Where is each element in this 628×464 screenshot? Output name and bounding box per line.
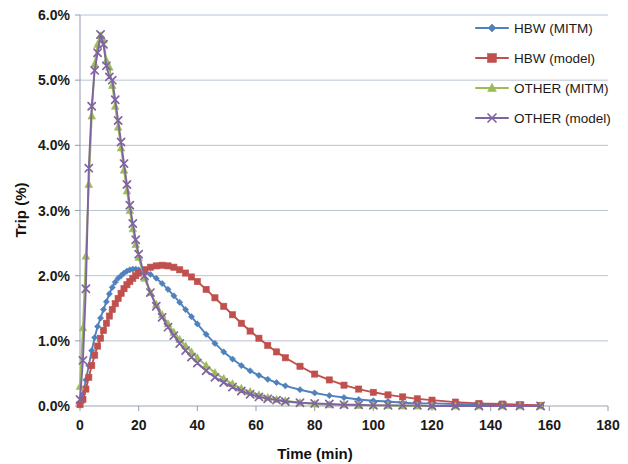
data-point-marker-square	[159, 262, 165, 268]
data-point-marker-square	[238, 320, 244, 326]
x-tick-label: 80	[307, 417, 323, 433]
data-point-marker-square	[194, 278, 200, 284]
x-tick-label: 180	[596, 417, 620, 433]
data-point-marker-square	[95, 343, 101, 349]
x-tick-label: 140	[479, 417, 503, 433]
data-point-marker-square	[297, 363, 303, 369]
x-axis-title: Time (min)	[277, 445, 353, 462]
data-point-marker-square	[326, 377, 332, 383]
data-point-marker-square	[103, 320, 109, 326]
data-point-marker-square	[356, 386, 362, 392]
data-point-marker-square	[106, 313, 112, 319]
y-tick-label: 3.0%	[38, 203, 70, 219]
data-point-marker-square	[153, 263, 159, 269]
data-point-marker-square	[147, 264, 153, 270]
legend-item-label: OTHER (model)	[514, 111, 611, 126]
data-point-marker-square	[109, 306, 115, 312]
data-point-marker-square	[177, 267, 183, 273]
y-tick-label: 0.0%	[38, 398, 70, 414]
chart-container: 020406080100120140160180 0.0%1.0%2.0%3.0…	[0, 0, 628, 464]
data-point-marker-square	[273, 349, 279, 355]
y-tick-label: 2.0%	[38, 268, 70, 284]
data-point-marker-square	[400, 394, 406, 400]
data-point-marker-square	[97, 335, 103, 341]
data-point-marker-square	[414, 396, 420, 402]
data-point-marker-square	[171, 264, 177, 270]
data-point-marker-square	[221, 303, 227, 309]
data-point-marker-square	[188, 274, 194, 280]
x-tick-label: 120	[420, 417, 444, 433]
data-point-marker-square	[488, 54, 497, 63]
x-tick-label: 60	[248, 417, 264, 433]
x-tick-label: 20	[131, 417, 147, 433]
data-point-marker-square	[247, 328, 253, 334]
y-tick-label: 5.0%	[38, 72, 70, 88]
y-tick-label: 1.0%	[38, 333, 70, 349]
data-point-marker-square	[203, 286, 209, 292]
legend-item-label: HBW (model)	[514, 51, 595, 66]
data-point-marker-square	[212, 295, 218, 301]
data-point-marker-square	[370, 389, 376, 395]
x-tick-label: 40	[190, 417, 206, 433]
y-axis-title: Trip (%)	[12, 182, 29, 237]
data-point-marker-square	[265, 342, 271, 348]
data-point-marker-square	[183, 270, 189, 276]
trip-time-distribution-chart: 020406080100120140160180 0.0%1.0%2.0%3.0…	[0, 0, 628, 464]
data-point-marker-square	[229, 312, 235, 318]
y-tick-label: 4.0%	[38, 137, 70, 153]
data-point-marker-square	[312, 371, 318, 377]
data-point-marker-square	[385, 392, 391, 398]
data-point-marker-square	[100, 327, 106, 333]
data-point-marker-square	[89, 362, 95, 368]
x-tick-label: 160	[538, 417, 562, 433]
data-point-marker-square	[86, 374, 92, 380]
legend-item-label: HBW (MITM)	[514, 21, 593, 36]
legend-item-label: OTHER (MITM)	[514, 81, 608, 96]
data-point-marker-square	[341, 382, 347, 388]
data-point-marker-square	[165, 263, 171, 269]
data-point-marker-square	[92, 352, 98, 358]
data-point-marker-square	[256, 335, 262, 341]
x-tick-label: 100	[362, 417, 386, 433]
x-tick-label: 0	[76, 417, 84, 433]
y-tick-label: 6.0%	[38, 7, 70, 23]
data-point-marker-square	[282, 355, 288, 361]
